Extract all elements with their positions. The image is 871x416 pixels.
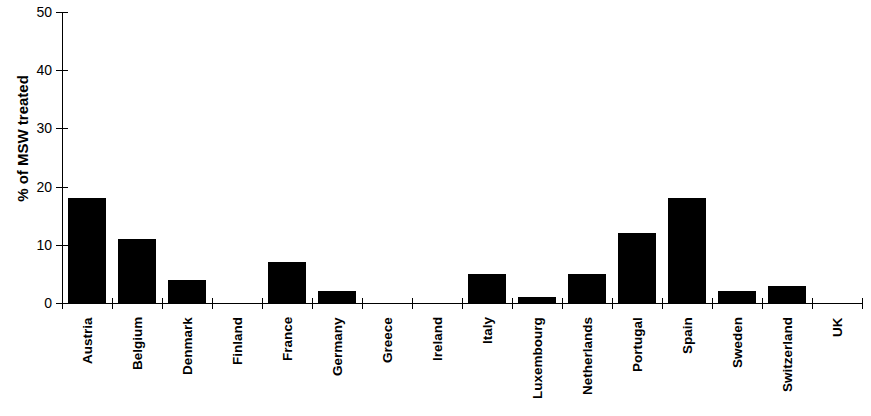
x-axis-label: Netherlands (580, 317, 595, 395)
y-axis-tick-label: 10 (22, 238, 52, 252)
y-axis-tick-label: 50 (22, 5, 52, 19)
y-axis-tick-label-holder: 20 (16, 187, 52, 188)
x-axis-tick (762, 298, 763, 309)
bar (618, 233, 656, 303)
x-axis-tick (62, 298, 63, 309)
x-axis-tick (362, 298, 363, 309)
x-axis-label: Sweden (730, 317, 745, 368)
x-axis-label: Greece (380, 317, 395, 363)
x-axis-tick (262, 298, 263, 309)
y-axis-tick-label-holder: 40 (16, 70, 52, 71)
x-axis-tick (662, 298, 663, 309)
y-axis-tick-label: 20 (22, 180, 52, 194)
y-axis-tick (56, 128, 68, 129)
x-axis-tick (562, 298, 563, 309)
x-axis-label: Austria (80, 317, 95, 364)
y-axis-tick (56, 245, 68, 246)
y-axis-tick-label: 0 (22, 296, 52, 310)
bar (268, 262, 306, 303)
y-axis-tick-label: 40 (22, 63, 52, 77)
y-axis-tick (56, 70, 68, 71)
bar (518, 297, 556, 303)
x-axis-label: Italy (480, 317, 495, 344)
x-axis-tick (862, 298, 863, 309)
x-axis-label: Ireland (430, 317, 445, 361)
x-axis-label: Luxembourg (530, 317, 545, 399)
bar (318, 291, 356, 303)
x-axis-tick (312, 298, 313, 309)
x-axis-tick (162, 298, 163, 309)
x-axis-tick (512, 298, 513, 309)
x-axis-label: Belgium (130, 317, 145, 370)
x-axis-label: Denmark (180, 317, 195, 375)
x-axis-tick (712, 298, 713, 309)
y-axis-tick-label-holder: 30 (16, 128, 52, 129)
x-axis-label: Spain (680, 317, 695, 354)
x-axis-label: UK (830, 318, 845, 338)
x-axis-label: Finland (230, 317, 245, 365)
bar (68, 198, 106, 303)
x-axis-label: Portugal (630, 317, 645, 372)
y-axis-tick (56, 187, 68, 188)
y-axis-tick-label-holder: 0 (16, 303, 52, 304)
y-axis-tick-label-holder: 50 (16, 12, 52, 13)
x-axis-tick (412, 298, 413, 309)
x-axis-tick (112, 298, 113, 309)
bar-chart: % of MSW treated 01020304050 AustriaBelg… (0, 0, 871, 416)
bar (668, 198, 706, 303)
x-axis-tick (212, 298, 213, 309)
y-axis-tick-label: 30 (22, 121, 52, 135)
y-axis-tick (56, 12, 68, 13)
bar (168, 280, 206, 303)
bar (118, 239, 156, 303)
bar (718, 291, 756, 303)
x-axis-label: France (280, 317, 295, 361)
bar (768, 286, 806, 303)
x-axis-tick (462, 298, 463, 309)
x-axis-label: Switzerland (780, 317, 795, 392)
x-axis-tick (812, 298, 813, 309)
x-axis-label: Germany (330, 317, 345, 376)
y-axis-line (62, 12, 63, 304)
bar (568, 274, 606, 303)
bar (468, 274, 506, 303)
x-axis-tick (612, 298, 613, 309)
y-axis-tick-label-holder: 10 (16, 245, 52, 246)
